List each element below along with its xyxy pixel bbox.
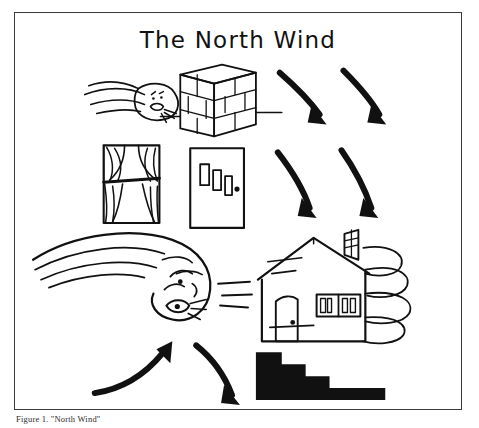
house xyxy=(258,230,410,343)
wind-face-large xyxy=(33,233,252,320)
arrow-down-right-2 xyxy=(343,71,386,125)
descending-steps xyxy=(256,352,385,400)
arrow-down-right-4 xyxy=(341,150,378,218)
door xyxy=(190,148,244,228)
arrow-up-right xyxy=(95,341,173,393)
arrow-down-right-1 xyxy=(280,73,327,125)
figure-frame: The North Wind xyxy=(14,12,462,410)
figure-caption: Figure 1. "North Wind" xyxy=(16,414,101,424)
window-with-curtains xyxy=(104,145,160,223)
page-root: The North Wind Figure 1. "North Wind" xyxy=(0,0,479,428)
figure-drawing xyxy=(15,13,461,409)
arrow-down-right-3 xyxy=(278,152,317,218)
arrow-down-right-5 xyxy=(196,345,240,405)
